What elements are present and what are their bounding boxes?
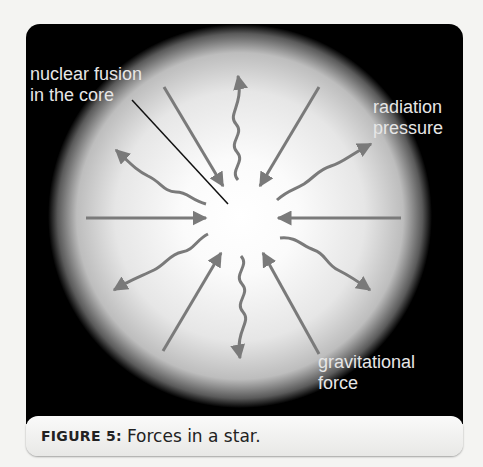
caption-text: Forces in a star. <box>127 426 261 446</box>
fusion-label-line2: in the core <box>30 85 142 106</box>
gravity-label: gravitational force <box>318 352 415 394</box>
radiation-label-line1: radiation <box>373 97 443 118</box>
radiation-label: radiation pressure <box>373 97 443 139</box>
figure-caption: FIGURE 5: Forces in a star. <box>26 416 463 456</box>
gravity-label-line2: force <box>318 373 415 394</box>
radiation-label-line2: pressure <box>373 118 443 139</box>
gravity-label-line1: gravitational <box>318 352 415 373</box>
star-diagram-panel: nuclear fusion in the core radiation pre… <box>26 24 463 424</box>
fusion-label: nuclear fusion in the core <box>30 64 142 106</box>
fusion-label-line1: nuclear fusion <box>30 64 142 85</box>
caption-figure-number: FIGURE 5: <box>41 428 122 444</box>
